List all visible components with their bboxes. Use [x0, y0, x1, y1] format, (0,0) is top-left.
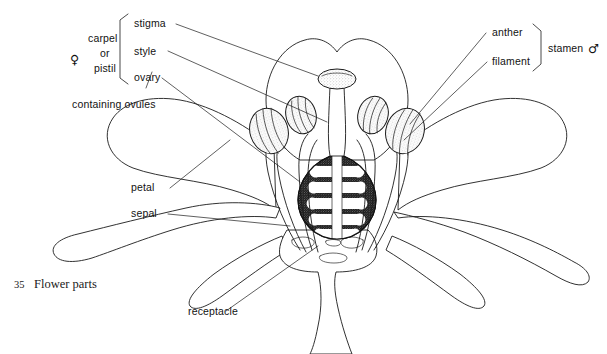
- sepal-lower-right: [386, 236, 485, 308]
- petal-right: [398, 98, 567, 210]
- figure-caption: 35 Flower parts: [14, 277, 97, 291]
- caption-text: Flower parts: [34, 277, 97, 291]
- label-receptacle: receptacle: [188, 305, 238, 317]
- caption-number: 35: [14, 279, 25, 290]
- group-stamen-label: stamen: [548, 42, 583, 54]
- label-stigma: stigma: [134, 17, 166, 29]
- group-carpel-line1: carpel: [88, 32, 118, 44]
- label-style: style: [134, 45, 156, 57]
- style: [328, 86, 345, 156]
- flower-illustration: [53, 39, 589, 354]
- female-symbol: ♀: [70, 52, 79, 67]
- label-ovary: ovary: [134, 71, 161, 83]
- label-containing-ovules: containing ovules: [72, 98, 156, 110]
- flower-diagram: stigma style ovary containing ovules pet…: [0, 0, 607, 354]
- bracket-carpel: [120, 14, 128, 84]
- male-symbol: ♂: [588, 41, 599, 56]
- label-filament: filament: [492, 55, 530, 67]
- stigma: [318, 69, 356, 89]
- ovary: [298, 154, 376, 240]
- bracket-stamen: [533, 24, 541, 71]
- label-sepal: sepal: [131, 207, 157, 219]
- group-carpel-line3: pistil: [94, 62, 116, 74]
- sepal-left: [53, 203, 280, 262]
- petal-left: [107, 98, 276, 210]
- label-anther: anther: [492, 26, 523, 38]
- figure-page: stigma style ovary containing ovules pet…: [0, 0, 607, 354]
- group-carpel-line2: or: [100, 47, 110, 59]
- sepal-lower-left: [189, 236, 288, 308]
- label-petal: petal: [131, 181, 155, 193]
